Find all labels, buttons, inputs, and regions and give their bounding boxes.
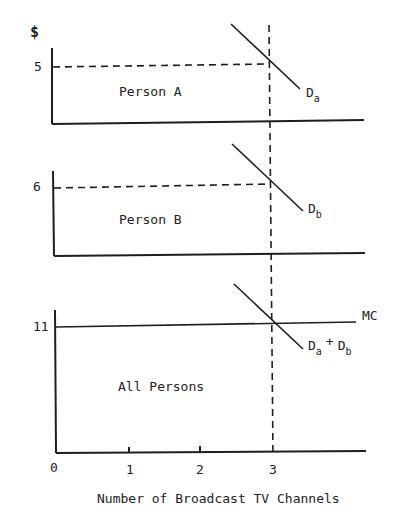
panel-a-y-tick: 5 — [34, 59, 42, 74]
panel-b-y-axis — [53, 171, 54, 256]
panel-c-title: All Persons — [118, 379, 204, 394]
panel-person-b: 6 Db Person B — [33, 144, 365, 256]
panel-b-price-guide — [54, 184, 270, 188]
chart: $ 5 Da Person A 6 Db Person B 11 MC Da+D… — [0, 0, 397, 522]
x-tick-3: 3 — [269, 462, 277, 477]
da-plus-db-label: Da+Db — [308, 334, 352, 357]
quantity-guide-line — [269, 25, 273, 456]
db-label: Db — [308, 201, 322, 220]
panel-c-y-axis — [55, 310, 56, 453]
panel-a-x-axis — [52, 120, 364, 124]
da-label: Da — [306, 85, 320, 104]
marginal-cost-line — [56, 322, 356, 327]
panel-a-price-guide — [53, 64, 269, 67]
x-tick-2: 2 — [196, 462, 204, 477]
panel-person-a: 5 Da Person A — [34, 24, 364, 124]
x-tick-1: 1 — [126, 462, 134, 477]
demand-curve-da — [231, 24, 300, 89]
x-tick-0: 0 — [50, 460, 58, 475]
demand-curve-da-plus-db — [234, 284, 303, 349]
panel-c-x-axis — [56, 451, 366, 453]
mc-label: MC — [362, 308, 378, 323]
panel-b-x-axis — [54, 253, 365, 256]
panel-a-title: Person A — [119, 84, 182, 99]
panel-b-title: Person B — [119, 212, 182, 227]
y-axis-label: $ — [30, 23, 39, 41]
panel-c-y-tick: 11 — [33, 319, 49, 334]
panel-b-y-tick: 6 — [33, 179, 41, 194]
x-axis-label: Number of Broadcast TV Channels — [97, 491, 340, 506]
panel-all-persons: 11 MC Da+Db All Persons 0 1 2 3 — [33, 284, 378, 477]
demand-curve-db — [232, 144, 303, 211]
